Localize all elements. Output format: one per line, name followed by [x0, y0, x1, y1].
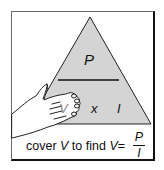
- caption-equals: =: [118, 139, 125, 153]
- label-current: I: [117, 102, 121, 115]
- caption-prefix: cover: [26, 139, 60, 153]
- caption-middle: to find: [68, 139, 109, 153]
- label-times-operator: x: [91, 102, 98, 115]
- caption-text: cover V to find V=: [26, 140, 125, 153]
- fraction-numerator: P: [133, 131, 145, 144]
- label-power: P: [84, 52, 94, 67]
- label-voltage-covered: V: [59, 102, 68, 115]
- caption-fraction: P I: [133, 131, 145, 159]
- fraction-denominator: I: [133, 147, 145, 160]
- caption-result-var: V: [109, 139, 117, 153]
